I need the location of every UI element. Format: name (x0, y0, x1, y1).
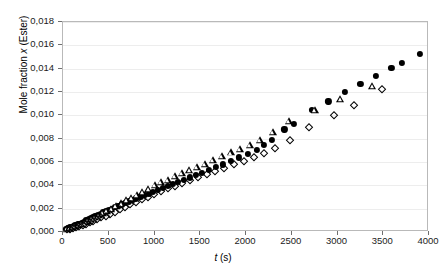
data-point-filled-circle (388, 64, 394, 70)
x-axis-tick-label: 3000 (326, 236, 347, 246)
y-axis-tick-mark (58, 91, 62, 92)
y-axis-tick-mark (58, 21, 62, 22)
data-point-open-diamond (221, 164, 229, 172)
chart-figure: 0,0000,0020,0040,0060,0080,0100,0120,014… (0, 0, 446, 277)
data-point-filled-circle (269, 137, 275, 143)
x-axis-tick-label: 1000 (143, 236, 164, 246)
data-point-open-diamond (271, 144, 279, 152)
x-axis-tick-label: 500 (100, 236, 116, 246)
y-axis-tick-mark (58, 44, 62, 45)
data-point-open-diamond (330, 111, 338, 119)
y-axis-tick-mark (58, 208, 62, 209)
x-axis-tick-label: 1500 (189, 236, 210, 246)
plot-area (62, 21, 428, 231)
y-axis-tick-label: 0,002 (30, 203, 54, 213)
data-point-filled-circle (417, 50, 423, 56)
y-axis-tick-mark (58, 138, 62, 139)
y-axis-tick-label: 0,016 (30, 39, 54, 49)
y-axis-label: Mole fraction x (Ester) (18, 0, 29, 175)
x-axis-tick-label: 2500 (280, 236, 301, 246)
data-point-open-triangle (209, 156, 217, 163)
data-point-filled-circle (254, 147, 260, 153)
x-axis-label-unit: (s) (220, 252, 232, 263)
y-axis-tick-mark (58, 68, 62, 69)
data-point-filled-circle (398, 60, 404, 66)
data-point-open-diamond (260, 149, 268, 157)
data-point-open-diamond (286, 136, 294, 144)
data-point-open-triangle (368, 82, 376, 89)
data-point-filled-circle (373, 73, 379, 79)
y-axis-tick-label: 0,012 (30, 86, 54, 96)
data-point-filled-circle (325, 98, 331, 104)
x-axis-tick-label: 2000 (234, 236, 255, 246)
data-point-filled-circle (281, 126, 287, 132)
x-axis-tick-label: 0 (59, 236, 64, 246)
data-point-open-diamond (230, 160, 238, 168)
data-point-open-diamond (305, 123, 313, 131)
data-point-filled-circle (357, 81, 363, 87)
data-point-open-triangle (218, 153, 226, 160)
y-axis-label-variable: x (18, 48, 29, 53)
data-point-open-triangle (201, 160, 209, 167)
data-point-open-diamond (378, 85, 386, 93)
y-axis-tick-label: 0,006 (30, 156, 54, 166)
y-axis-tick-mark (58, 161, 62, 162)
data-points-layer (63, 22, 427, 230)
y-axis-tick-label: 0,010 (30, 109, 54, 119)
data-point-open-triangle (269, 128, 277, 135)
y-axis-tick-label: 0,018 (30, 16, 54, 26)
y-axis-label-prefix: Mole fraction (18, 53, 29, 113)
y-axis-label-suffix: (Ester) (18, 16, 29, 49)
y-axis-tick-mark (58, 114, 62, 115)
data-point-open-triangle (236, 145, 244, 152)
data-point-open-diamond (350, 101, 358, 109)
x-axis-tick-label: 3500 (372, 236, 393, 246)
data-point-open-triangle (246, 141, 254, 148)
y-axis-tick-label: 0,004 (30, 179, 54, 189)
y-axis-tick-label: 0,000 (30, 226, 54, 236)
y-axis-tick-mark (58, 184, 62, 185)
data-point-open-diamond (250, 153, 258, 161)
data-point-open-triangle (227, 149, 235, 156)
data-point-open-triangle (256, 136, 264, 143)
y-axis-tick-label: 0,008 (30, 133, 54, 143)
data-point-open-triangle (311, 106, 319, 113)
data-point-open-triangle (336, 95, 344, 102)
x-axis-tick-label: 4000 (417, 236, 438, 246)
x-axis-label: t (s) (0, 252, 446, 263)
y-axis-tick-label: 0,014 (30, 63, 54, 73)
data-point-open-diamond (203, 170, 211, 178)
data-point-open-triangle (285, 117, 293, 124)
